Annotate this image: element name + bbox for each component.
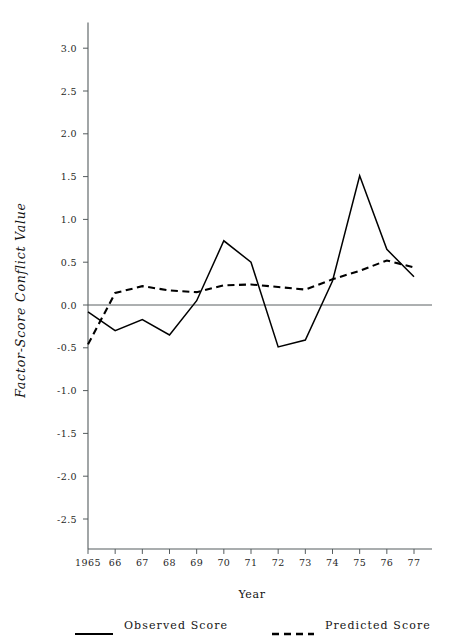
y-axis-tick-label: 0.5 [61, 257, 77, 268]
x-axis-tick-label: 77 [408, 557, 421, 568]
legend-label-observed: Observed Score [124, 619, 228, 632]
x-axis-tick-label: 68 [163, 557, 176, 568]
y-axis-tick-labels: 3.02.52.01.51.00.50.0-0.5-1.0-1.5-2.0-2.… [57, 43, 77, 525]
y-axis-tick-label: -2.5 [57, 514, 77, 525]
x-axis-tick-label: 72 [272, 557, 285, 568]
y-axis-tick-label: 1.5 [61, 171, 77, 182]
x-axis-tick-label: 73 [299, 557, 312, 568]
y-axis-tick-label: -1.0 [57, 385, 77, 396]
y-axis-tick-label: 2.0 [61, 128, 77, 139]
factor-score-conflict-chart: 3.02.52.01.51.00.50.0-0.5-1.0-1.5-2.0-2.… [0, 0, 449, 644]
y-axis-tick-label: -2.0 [57, 471, 77, 482]
x-axis-tick-label: 71 [245, 557, 258, 568]
x-axis-tick-label: 66 [109, 557, 122, 568]
x-axis-tick-label: 76 [380, 557, 393, 568]
x-axis-tick-label: 67 [136, 557, 149, 568]
y-axis-tick-label: 1.0 [61, 214, 77, 225]
x-axis-tick-label: 1965 [75, 557, 101, 568]
x-axis-title: Year [237, 588, 265, 601]
x-axis-tick-labels: 1965666768697071727374757677 [75, 557, 420, 568]
y-axis-tick-label: 2.5 [61, 86, 77, 97]
series-line-observed-score [88, 176, 414, 347]
legend: Observed Score Predicted Score [75, 619, 431, 634]
x-axis-tick-label: 70 [217, 557, 230, 568]
x-axis-tick-label: 69 [190, 557, 203, 568]
legend-label-predicted: Predicted Score [325, 619, 431, 632]
y-axis-tick-label: -0.5 [57, 342, 77, 353]
y-axis-tick-label: 0.0 [61, 300, 77, 311]
y-axis-tick-label: -1.5 [57, 428, 77, 439]
y-axis-title: Factor-Score Conflict Value [13, 202, 28, 399]
y-axis-tick-label: 3.0 [61, 43, 77, 54]
x-axis-tick-label: 75 [353, 557, 366, 568]
y-axis-tick-marks [83, 48, 88, 519]
x-axis-tick-label: 74 [326, 557, 339, 568]
x-axis-tick-marks [88, 549, 414, 554]
series-line-predicted-score [88, 260, 414, 344]
